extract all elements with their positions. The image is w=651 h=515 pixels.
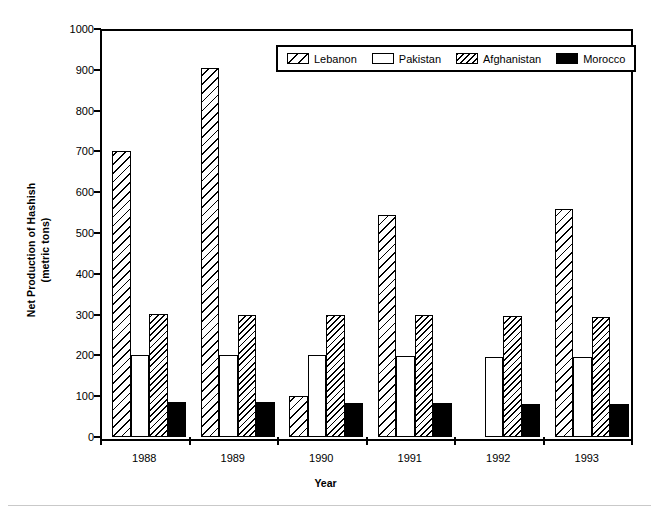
black-swatch [556, 53, 578, 64]
bar-morocco-1993 [610, 404, 629, 437]
bar-pakistan-1993 [573, 357, 592, 437]
y-axis-tick-label: 100 [52, 390, 94, 402]
bar-morocco-1988 [168, 402, 187, 437]
x-axis-title: Year [0, 477, 651, 489]
bar-morocco-1989 [256, 402, 275, 437]
x-axis-tick-label: 1992 [486, 452, 510, 464]
hatch-dense-swatch [456, 53, 478, 64]
bar-afghanistan-1992 [503, 316, 522, 437]
bar-afghanistan-1988 [149, 314, 168, 437]
bar-afghanistan-1993 [592, 317, 611, 437]
x-axis-tick-mark [454, 437, 456, 445]
bottom-divider [8, 505, 651, 506]
y-axis-tick-label: 400 [52, 268, 94, 280]
bar-pakistan-1990 [308, 355, 327, 437]
plot-area [100, 29, 633, 441]
x-axis-tick-marks [0, 437, 651, 449]
legend-label-morocco: Morocco [583, 53, 625, 65]
white-swatch [372, 53, 394, 64]
x-axis-tick-label: 1988 [132, 452, 156, 464]
x-axis-tick-mark [366, 437, 368, 445]
bar-morocco-1991 [433, 403, 452, 437]
legend-label-pakistan: Pakistan [399, 53, 441, 65]
bar-morocco-1990 [345, 403, 364, 437]
x-axis-tick-label: 1993 [575, 452, 599, 464]
hatch-wide-swatch [287, 53, 309, 64]
y-axis-tick-label: 600 [52, 186, 94, 198]
y-axis-title-line1: Net Production of Hashish [25, 183, 37, 317]
bar-pakistan-1992 [485, 357, 504, 437]
y-axis-tick-label: 300 [52, 309, 94, 321]
legend-label-lebanon: Lebanon [314, 53, 357, 65]
bar-morocco-1992 [522, 404, 541, 437]
y-axis-tick-label: 500 [52, 227, 94, 239]
bar-pakistan-1989 [219, 355, 238, 437]
y-axis-tick-label: 1000 [52, 23, 94, 35]
y-axis-tick-label: 200 [52, 349, 94, 361]
bar-lebanon-1990 [289, 396, 308, 437]
legend-item-afghanistan: Afghanistan [456, 53, 541, 65]
x-axis-tick-label: 1990 [309, 452, 333, 464]
bar-lebanon-1988 [112, 151, 131, 437]
chart-legend: LebanonPakistanAfghanistanMorocco [276, 45, 636, 72]
x-axis-tick-mark [543, 437, 545, 445]
bar-afghanistan-1990 [326, 315, 345, 437]
x-axis-tick-mark [100, 437, 102, 445]
bar-afghanistan-1989 [238, 315, 257, 437]
y-axis-tick-label: 900 [52, 64, 94, 76]
bar-lebanon-1991 [378, 215, 397, 437]
x-axis-tick-label: 1991 [398, 452, 422, 464]
bar-afghanistan-1991 [415, 315, 434, 437]
x-axis-tick-mark [631, 437, 633, 445]
legend-item-pakistan: Pakistan [372, 53, 441, 65]
x-axis-tick-labels: 198819891990199119921993 [0, 452, 651, 472]
bar-chart-figure: Net Production of Hashish (metric tons) … [0, 0, 651, 515]
y-axis-tick-label: 800 [52, 105, 94, 117]
bar-lebanon-1989 [201, 68, 220, 437]
bar-lebanon-1993 [555, 209, 574, 437]
x-axis-tick-mark [277, 437, 279, 445]
legend-label-afghanistan: Afghanistan [483, 53, 541, 65]
y-axis-tick-label: 700 [52, 145, 94, 157]
x-axis-tick-mark [189, 437, 191, 445]
legend-item-morocco: Morocco [556, 53, 625, 65]
x-axis-tick-label: 1989 [221, 452, 245, 464]
legend-item-lebanon: Lebanon [287, 53, 357, 65]
bar-pakistan-1988 [131, 355, 150, 437]
bar-pakistan-1991 [396, 356, 415, 437]
